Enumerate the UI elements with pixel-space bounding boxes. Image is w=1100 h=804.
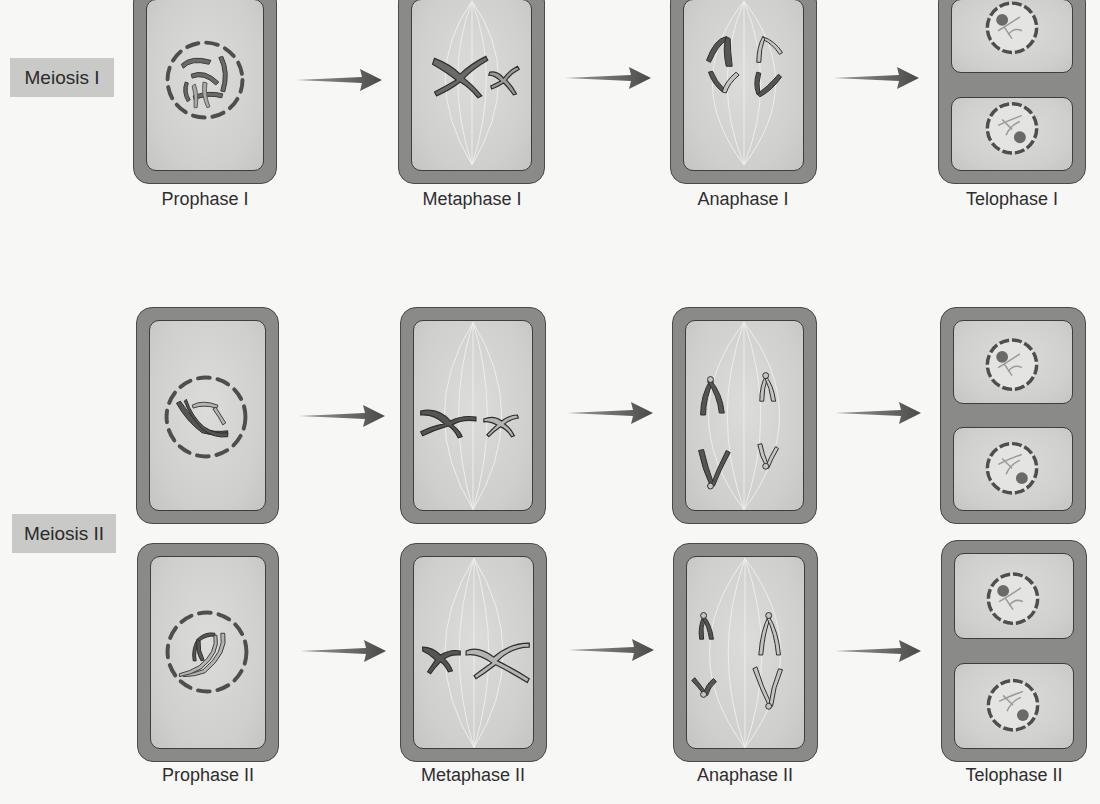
stage-label-telophase-2: Telophase II: [914, 765, 1100, 786]
meiosis-1-badge: Meiosis I: [10, 58, 114, 97]
arrow-right-icon: [835, 639, 921, 663]
cell-metaphase-1: [398, 0, 545, 184]
stage-label-prophase-2: Prophase II: [108, 765, 308, 786]
daughter-nuclei-icon: [942, 541, 1086, 761]
stage-label-metaphase-1: Metaphase I: [372, 189, 572, 210]
meiosis-2-label: Meiosis II: [24, 523, 104, 545]
meiosis-2-badge: Meiosis II: [12, 514, 116, 553]
cell-telophase-2a: [940, 307, 1086, 524]
spindle-chromosomes-icon: [673, 308, 816, 523]
arrow-right-icon: [835, 401, 921, 425]
nucleus-chromosomes-icon: [138, 544, 278, 761]
spindle-chromosomes-icon: [671, 0, 816, 183]
cell-anaphase-2b: [673, 543, 818, 762]
cell-metaphase-2a: [400, 307, 546, 524]
cell-prophase-2a: [136, 307, 279, 524]
nucleus-chromosomes-icon: [137, 308, 278, 523]
stage-label-telophase-1: Telophase I: [912, 189, 1100, 210]
stage-label-anaphase-2: Anaphase II: [645, 765, 845, 786]
meiosis-1-label: Meiosis I: [25, 67, 100, 89]
spindle-chromosomes-icon: [401, 544, 546, 761]
cell-prophase-1: [133, 0, 277, 184]
daughter-nuclei-icon: [939, 0, 1085, 183]
daughter-nuclei-icon: [941, 308, 1085, 523]
cell-telophase-1: [938, 0, 1086, 184]
arrow-right-icon: [568, 638, 654, 662]
arrow-right-icon: [299, 404, 385, 428]
cell-telophase-2b: [941, 540, 1087, 762]
cell-prophase-2b: [137, 543, 279, 762]
stage-label-anaphase-1: Anaphase I: [643, 189, 843, 210]
stage-label-metaphase-2: Metaphase II: [373, 765, 573, 786]
spindle-chromosomes-icon: [401, 308, 545, 523]
spindle-chromosomes-icon: [399, 0, 544, 183]
spindle-chromosomes-icon: [674, 544, 817, 761]
cell-metaphase-2b: [400, 543, 547, 762]
arrow-right-icon: [567, 401, 653, 425]
arrow-right-icon: [565, 66, 651, 90]
arrow-right-icon: [833, 66, 919, 90]
arrow-right-icon: [300, 639, 386, 663]
cell-anaphase-1: [670, 0, 817, 184]
cell-anaphase-2a: [672, 307, 817, 524]
nucleus-chromosomes-icon: [134, 0, 276, 183]
stage-label-prophase-1: Prophase I: [105, 189, 305, 210]
arrow-right-icon: [296, 68, 382, 92]
